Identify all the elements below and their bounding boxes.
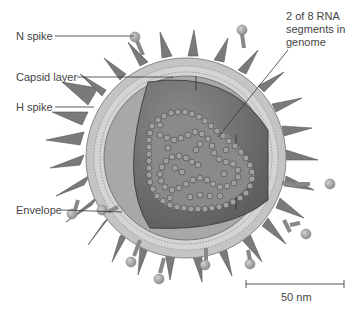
label-envelope: Envelope	[16, 204, 62, 217]
label-rna-line2: segments in	[286, 23, 345, 36]
label-n-spike: N spike	[16, 30, 53, 43]
label-rna-line1: 2 of 8 RNA	[286, 10, 340, 23]
label-h-spike: H spike	[16, 101, 53, 114]
label-capsid-layer: Capsid layer	[16, 71, 77, 84]
label-rna-line3: genome	[286, 36, 326, 49]
scale-bar	[246, 280, 344, 288]
scale-bar-label: 50 nm	[281, 291, 312, 304]
